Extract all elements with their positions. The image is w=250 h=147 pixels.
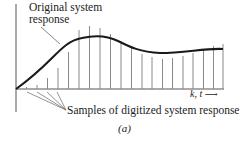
figure-caption: (a): [118, 122, 131, 134]
original-response-label: Original system response: [29, 1, 102, 25]
title-leader-line: [41, 27, 60, 44]
time-axis-label: k, t ⟶: [190, 88, 218, 99]
original-response-label-line1: Original system: [29, 1, 102, 13]
samples-leader-lines: [27, 92, 66, 110]
digitized-response-figure: Original system response k, t ⟶ Samples …: [0, 0, 250, 147]
samples-label: Samples of digitized system response: [67, 104, 239, 116]
right-arrow-icon: ⟶: [205, 89, 218, 99]
axis-label-text: k, t: [190, 88, 202, 99]
caption-text: (a): [118, 122, 131, 134]
original-response-label-line2: response: [29, 13, 102, 25]
sample-lines: [27, 26, 224, 89]
